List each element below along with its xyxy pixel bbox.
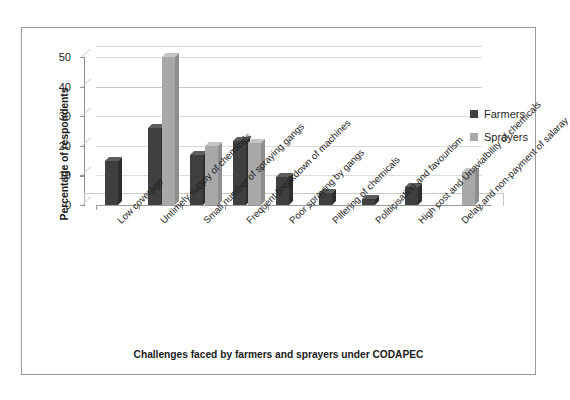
x-axis-category-labels: Low coverageUntimely supply of chemicals… (84, 218, 504, 368)
bar-group (96, 46, 139, 205)
y-axis-tick: 40 (80, 87, 85, 88)
bar-side (118, 157, 122, 205)
bar-farmers (105, 161, 118, 205)
chart-legend: FarmersSprayers (470, 108, 550, 154)
y-axis-tick-depth (81, 48, 91, 57)
legend-item-label: Sprayers (484, 131, 528, 143)
y-axis-tick-label: 0 (65, 199, 71, 211)
bar-side (332, 189, 336, 205)
y-axis-tick: 30 (80, 116, 85, 117)
y-axis-tick-label: 40 (59, 81, 71, 93)
bar-face (105, 161, 118, 205)
legend-swatch-icon (470, 133, 478, 141)
bar-farmers (362, 199, 375, 205)
y-axis-tick-depth (81, 137, 91, 146)
y-axis-line (84, 57, 85, 205)
y-axis-tick-depth (81, 167, 91, 176)
legend-item-farmers[interactable]: Farmers (470, 108, 550, 120)
chart-figure-frame: Percentage of respondents 01020304050 Lo… (21, 27, 536, 375)
legend-swatch-icon (470, 110, 478, 118)
y-axis-tick-label: 10 (59, 169, 71, 181)
y-axis-tick: 0 (80, 205, 85, 206)
y-axis-tick-label: 20 (59, 140, 71, 152)
y-axis-tick: 20 (80, 146, 85, 147)
y-axis-tick-label: 50 (59, 51, 71, 63)
bar-side (218, 142, 222, 205)
y-axis-tick-depth (81, 78, 91, 87)
x-axis-tick (96, 205, 97, 210)
bar-face (362, 199, 375, 205)
y-axis-tick-depth (81, 108, 91, 117)
y-axis-tick-label: 30 (59, 110, 71, 122)
y-axis-tick: 10 (80, 175, 85, 176)
bar-side (375, 195, 379, 205)
y-axis-tick: 50 (80, 57, 85, 58)
legend-item-label: Farmers (484, 108, 525, 120)
bar-side (175, 53, 179, 205)
legend-item-sprayers[interactable]: Sprayers (470, 131, 550, 143)
x-axis-title: Challenges faced by farmers and sprayers… (22, 349, 535, 360)
